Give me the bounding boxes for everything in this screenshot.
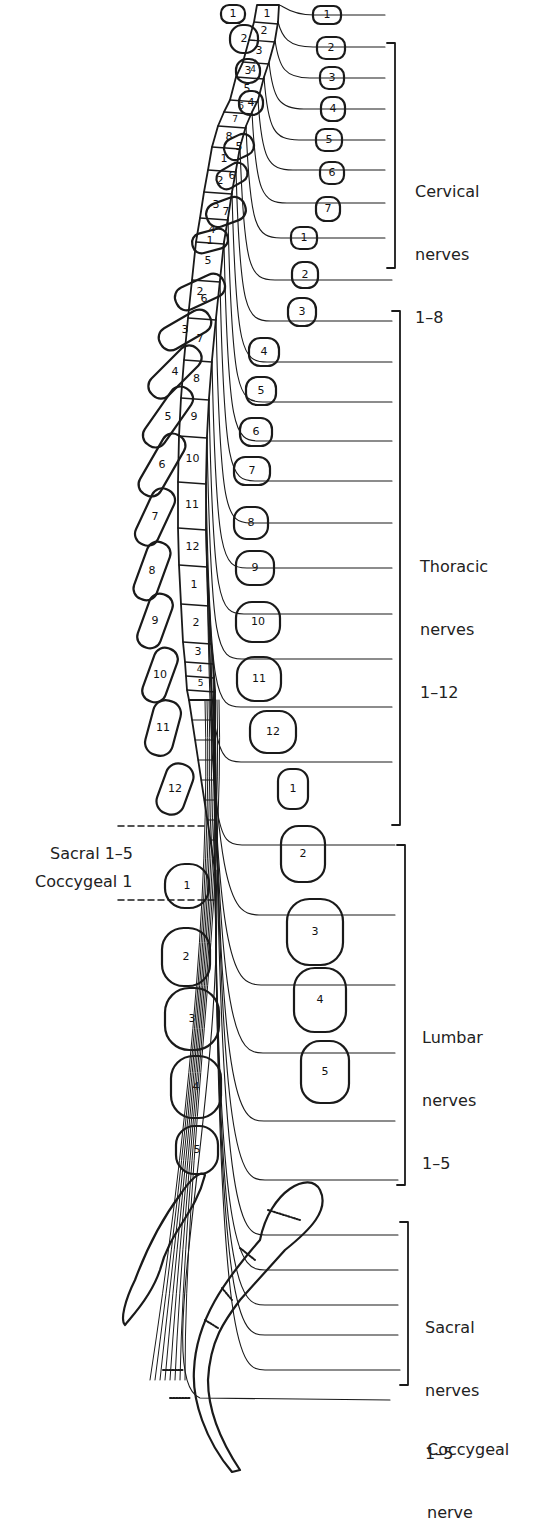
vertebral-body-number: 7 <box>325 202 332 215</box>
spinous-process-number: 1 <box>230 7 237 20</box>
spinal-nerve <box>220 280 392 481</box>
spinous-process-number: 5 <box>165 410 172 423</box>
sacrum <box>194 1182 323 1472</box>
cord-segment-L3: 3 <box>195 645 202 658</box>
vertebral-body-number: 2 <box>302 268 309 281</box>
cord-segment-C1: 1 <box>264 7 271 20</box>
segment-divider <box>200 218 228 220</box>
lumbar-nerves-label: Lumbar nerves 1–5 <box>422 985 483 1195</box>
vertebral-body-number: 4 <box>317 993 324 1006</box>
thoracic-bracket <box>392 311 400 825</box>
fusion-line <box>205 1320 218 1328</box>
segment-divider <box>249 40 275 42</box>
spinal-nerve <box>215 870 398 1270</box>
cord-segment-L1: 1 <box>191 578 198 591</box>
spinal-nerve <box>215 700 398 1235</box>
spinous-process-number: 2 <box>183 950 190 963</box>
cord-segment-L4: 4 <box>197 664 203 674</box>
spinal-nerve <box>209 604 395 915</box>
spinous-process-number: 12 <box>168 782 182 795</box>
segment-divider <box>181 604 209 606</box>
sacral-segments-label: Sacral 1–5 <box>50 843 133 864</box>
segment-divider <box>204 192 232 194</box>
sacral-bracket <box>400 1222 408 1385</box>
spinal-nerve <box>206 528 392 762</box>
spinous-process-number: 6 <box>229 169 236 182</box>
spinal-nerve <box>215 870 400 1370</box>
cord-segment-T8: 8 <box>193 372 200 385</box>
spinal-nerve <box>211 642 395 985</box>
spinal-nerve <box>209 398 392 614</box>
spinous-process-number: 1 <box>184 879 191 892</box>
vertebral-body-number: 2 <box>300 847 307 860</box>
spinous-process-number: 5 <box>236 140 243 153</box>
segment-divider <box>181 398 209 400</box>
spinous-process-number: 1 <box>207 234 214 247</box>
coccygeal-segment-label: Coccygeal 1 <box>35 871 133 892</box>
spinal-nerve <box>216 318 392 523</box>
spinous-process-number: 11 <box>156 721 170 734</box>
cervical-bracket <box>387 43 395 268</box>
spinous-process-number: 2 <box>241 32 248 45</box>
coccygeal-nerve <box>183 870 390 1400</box>
segment-divider <box>183 642 211 644</box>
spinous-process-number: 10 <box>153 668 167 681</box>
segment-divider <box>178 482 206 484</box>
vertebral-body-number: 6 <box>329 166 336 179</box>
spinal-nerve <box>215 870 398 1305</box>
segment-divider <box>178 528 206 530</box>
spinous-process-number: 4 <box>172 365 179 378</box>
vertebral-body-number: 6 <box>253 425 260 438</box>
sacral-spinous-crest <box>123 1174 205 1325</box>
vertebral-body-number: 11 <box>252 672 266 685</box>
spinal-nerve <box>269 62 385 109</box>
cord-segment-L2: 2 <box>193 616 200 629</box>
cord-segment-T10: 10 <box>186 452 200 465</box>
spinal-nerve <box>207 565 395 845</box>
segment-divider <box>179 565 207 567</box>
vertebral-body-number: 3 <box>299 305 306 318</box>
fusion-line <box>268 1210 300 1220</box>
spinous-process-number: 3 <box>245 64 252 77</box>
vertebral-body-number: 3 <box>312 925 319 938</box>
spinous-process-number: 6 <box>159 458 166 471</box>
spinous-process-number: 7 <box>223 205 230 218</box>
cord-segment-T5: 5 <box>205 254 212 267</box>
spinous-process-number: 3 <box>182 323 189 336</box>
vertebral-body-number: 12 <box>266 725 280 738</box>
coccygeal-nerve-label: Coccygeal nerve <box>427 1397 509 1522</box>
cord-segment-C2: 2 <box>261 24 268 37</box>
spinous-process-number: 7 <box>152 510 159 523</box>
cord-segment-T12: 12 <box>186 540 200 553</box>
vertebral-body-number: 7 <box>249 464 256 477</box>
spinous-process-number: 8 <box>149 564 156 577</box>
spinal-nerve <box>232 192 392 362</box>
thoracic-nerves-label: Thoracic nerves 1–12 <box>420 514 488 724</box>
segment-divider <box>218 126 246 128</box>
vertebral-body-number: 5 <box>322 1065 329 1078</box>
cervical-nerves-label: Cervical nerves 1–8 <box>415 139 480 349</box>
cord-segment-T9: 9 <box>191 410 198 423</box>
cord-segment-C7: 7 <box>232 114 238 124</box>
spinal-nerve <box>215 870 398 1335</box>
vertebral-body-number: 4 <box>261 345 268 358</box>
spinal-nerve <box>228 218 392 402</box>
cord-segment-L5: 5 <box>198 678 204 688</box>
spinous-process-number: 9 <box>152 614 159 627</box>
segment-divider <box>224 112 252 114</box>
vertebral-body-number: 1 <box>290 782 297 795</box>
vertebral-body-number: 10 <box>251 615 265 628</box>
spinous-process-number: 4 <box>248 96 255 109</box>
lumbar-bracket <box>397 845 405 1185</box>
vertebral-body-number: 5 <box>258 384 265 397</box>
spinous-process-number: 2 <box>197 285 204 298</box>
cord-segment-T11: 11 <box>185 498 199 511</box>
segment-divider <box>184 360 212 362</box>
